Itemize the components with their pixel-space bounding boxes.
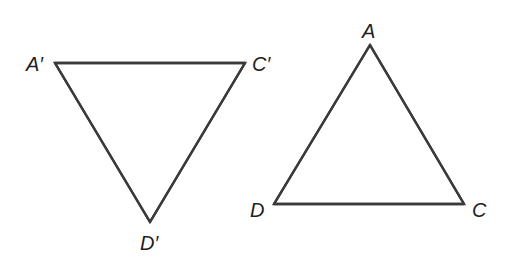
triangle-a-prime-c-prime-d-prime: A′ C′ D′ xyxy=(25,53,271,254)
vertex-label-d: D xyxy=(250,199,264,221)
vertex-label-a: A xyxy=(361,20,375,42)
diagram-canvas: A′ C′ D′ A D C xyxy=(0,0,512,263)
vertex-label-c: C xyxy=(472,199,487,221)
triangle-outline xyxy=(274,45,464,204)
vertex-label-d-prime: D′ xyxy=(140,232,159,254)
vertex-label-a-prime: A′ xyxy=(25,53,44,75)
triangle-a-d-c: A D C xyxy=(250,20,487,221)
triangle-outline-prime xyxy=(55,63,245,222)
vertex-label-c-prime: C′ xyxy=(252,53,271,75)
